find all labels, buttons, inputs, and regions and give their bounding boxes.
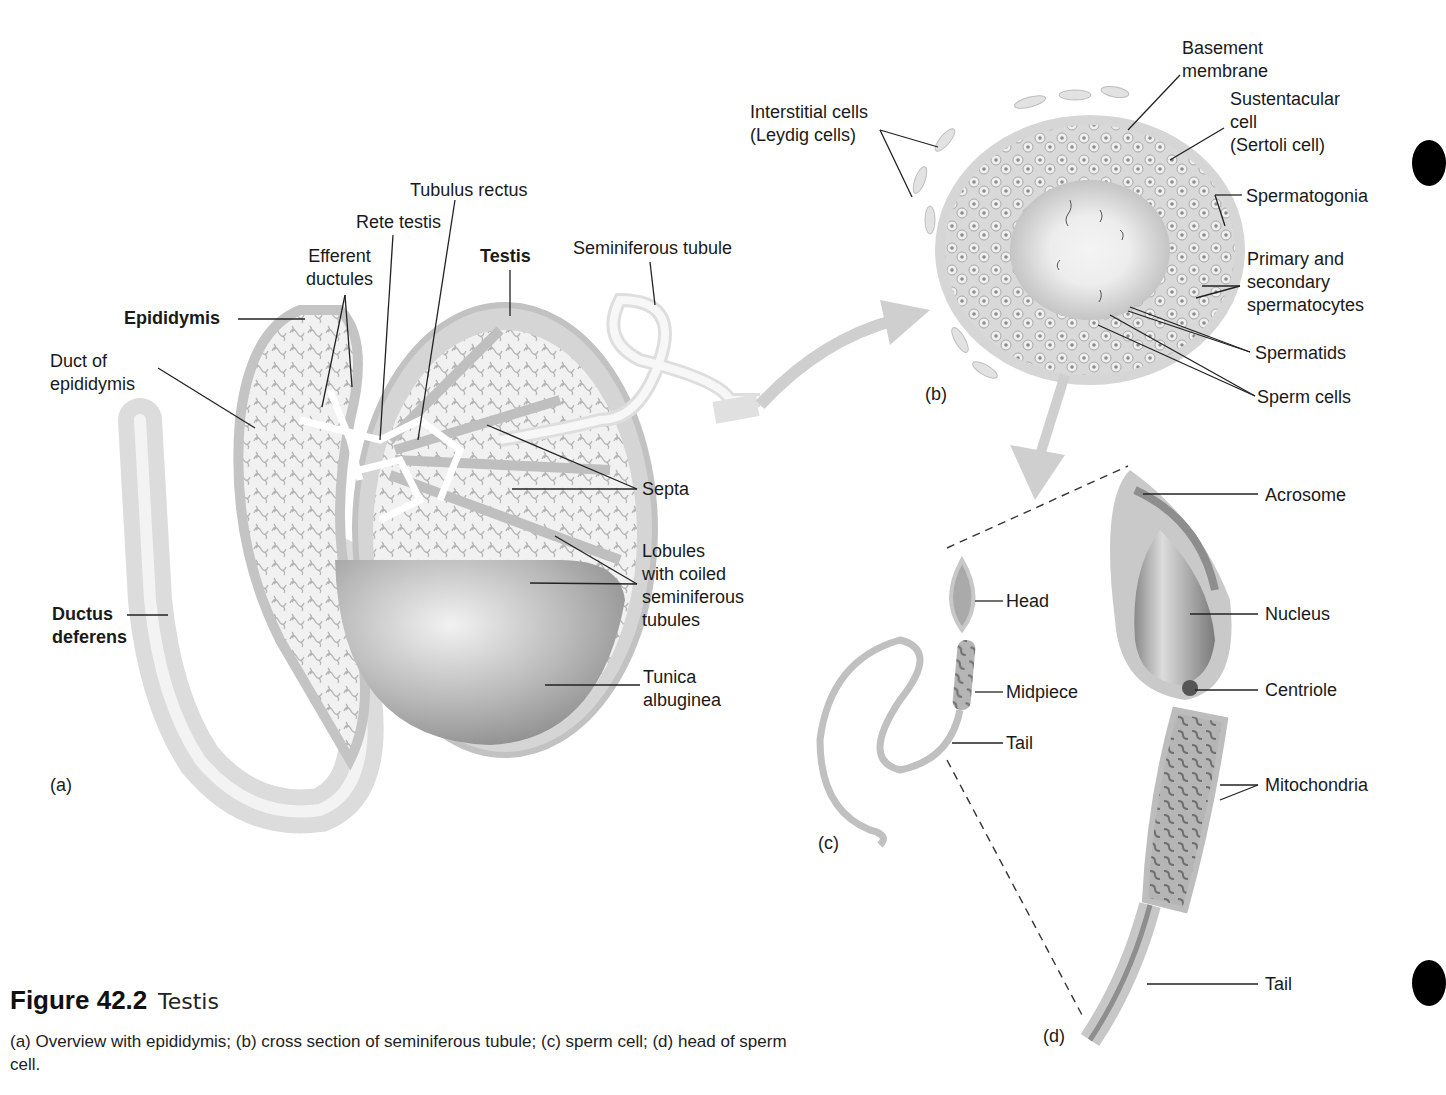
label-sustentacular-cell: Sustentacular cell (Sertoli cell): [1230, 88, 1340, 157]
label-duct-of-epididymis: Duct of epididymis: [50, 350, 135, 396]
arrow-head-c: [1010, 445, 1065, 500]
label-spermatocytes: Primary and secondary spermatocytes: [1247, 248, 1364, 317]
page-edge-mark-bottom: [1412, 960, 1446, 1006]
label-rete-testis: Rete testis: [356, 211, 441, 234]
label-ductus-deferens: Ductus deferens: [52, 603, 127, 649]
label-tunica-albuginea: Tunica albuginea: [643, 666, 721, 712]
label-acrosome: Acrosome: [1265, 484, 1346, 507]
label-efferent-ductules: Efferent ductules: [306, 245, 373, 291]
panel-label-b: (b): [925, 384, 947, 405]
zoom-line-bottom: [947, 760, 1082, 1015]
label-interstitial-cells: Interstitial cells (Leydig cells): [750, 101, 868, 147]
panel-d-illustration: [1090, 470, 1232, 1040]
label-mitochondria: Mitochondria: [1265, 774, 1368, 797]
label-epididymis: Epididymis: [124, 307, 220, 330]
label-testis: Testis: [480, 245, 531, 268]
label-spermatogonia: Spermatogonia: [1246, 185, 1368, 208]
label-centriole: Centriole: [1265, 679, 1337, 702]
figure-number: Figure 42.2: [10, 985, 147, 1016]
label-lobules: Lobules with coiled seminiferous tubules: [642, 540, 744, 632]
label-basement-membrane: Basement membrane: [1182, 37, 1268, 83]
label-midpiece: Midpiece: [1006, 681, 1078, 704]
figure-title: Testis: [158, 989, 219, 1014]
panel-label-c: (c): [818, 833, 839, 854]
label-tubulus-rectus: Tubulus rectus: [410, 179, 527, 202]
panel-label-d: (d): [1043, 1026, 1065, 1047]
arrow-head-b: [880, 300, 930, 345]
arrow-to-sperm-cell: [1040, 375, 1065, 455]
label-sperm-cells: Sperm cells: [1257, 386, 1351, 409]
panel-c-illustration: [820, 560, 976, 845]
label-nucleus: Nucleus: [1265, 603, 1330, 626]
figure-caption: (a) Overview with epididymis; (b) cross …: [10, 1030, 810, 1076]
panel-label-a: (a): [50, 775, 72, 796]
label-septa: Septa: [642, 478, 689, 501]
label-head: Head: [1006, 590, 1049, 613]
arrow-to-cross-section: [760, 320, 895, 405]
page-edge-mark-top: [1412, 140, 1446, 186]
label-tail-d: Tail: [1265, 973, 1292, 996]
label-spermatids: Spermatids: [1255, 342, 1346, 365]
panel-b-illustration: [911, 85, 1245, 385]
label-seminiferous-tubule: Seminiferous tubule: [573, 237, 732, 260]
label-tail-c: Tail: [1006, 732, 1033, 755]
